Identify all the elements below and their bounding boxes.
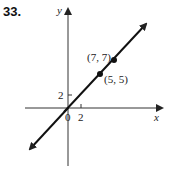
point-label-7-7: (7, 7) <box>87 51 111 64</box>
graph: y x 0 2 2 (7, 7) (5, 5) <box>0 0 173 185</box>
point-5-5 <box>97 71 103 77</box>
x-tick-label: 2 <box>78 111 84 123</box>
origin-label: 0 <box>65 111 71 123</box>
graph-line <box>64 24 146 112</box>
graph-line-lower <box>30 108 68 149</box>
point-7-7 <box>111 57 117 63</box>
point-label-5-5: (5, 5) <box>104 73 128 86</box>
y-tick-label: 2 <box>58 89 64 101</box>
x-axis-label: x <box>153 111 159 123</box>
y-axis-label: y <box>56 4 62 16</box>
